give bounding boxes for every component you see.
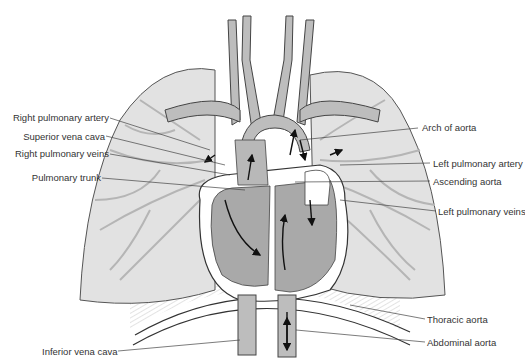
label-inferior-vena-cava: Inferior vena cava <box>42 346 118 357</box>
label-abdominal-aorta: Abdominal aorta <box>427 337 496 348</box>
label-arch-of-aorta: Arch of aorta <box>422 122 476 133</box>
label-ascending-aorta: Ascending aorta <box>433 176 502 187</box>
label-superior-vena-cava: Superior vena cava <box>23 131 105 142</box>
heart-lungs-diagram: Right pulmonary artery Superior vena cav… <box>0 0 525 364</box>
label-right-pulmonary-veins: Right pulmonary veins <box>15 148 109 159</box>
label-pulmonary-trunk: Pulmonary trunk <box>32 172 101 183</box>
label-left-pulmonary-artery: Left pulmonary artery <box>433 158 523 169</box>
label-right-pulmonary-artery: Right pulmonary artery <box>13 112 109 123</box>
label-thoracic-aorta: Thoracic aorta <box>427 314 488 325</box>
label-left-pulmonary-veins: Left pulmonary veins <box>438 206 525 217</box>
